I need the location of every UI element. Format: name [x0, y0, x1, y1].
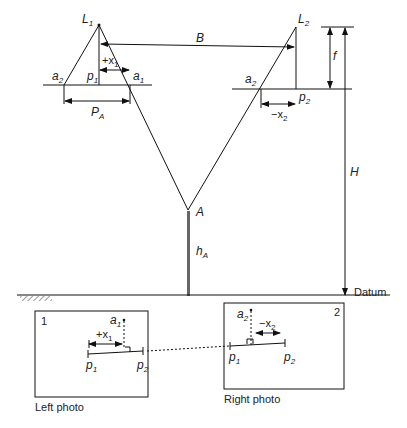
- label-minus-x2: −x2: [271, 108, 288, 123]
- left-photo-caption: Left photo: [35, 401, 84, 413]
- ground-hatch: [20, 296, 52, 301]
- right-photo-number: 2: [334, 306, 340, 318]
- right-photo-p2: p2: [283, 350, 296, 366]
- left-photo-plus-x1: +x1: [96, 328, 113, 343]
- label-B: B: [196, 31, 204, 45]
- label-L2: L2: [298, 12, 310, 28]
- label-hA: hA: [196, 244, 208, 260]
- label-A: A: [195, 205, 204, 219]
- label-a1: a1: [133, 69, 144, 85]
- label-PA: PA: [91, 105, 104, 121]
- object-height-bar: [187, 211, 190, 296]
- label-a2prime: a2: [52, 69, 64, 85]
- label-L1: L1: [82, 12, 93, 28]
- right-photo-a2: a2: [237, 307, 249, 323]
- left-photo-a1: a1: [110, 313, 121, 329]
- left-photo-number: 1: [41, 315, 47, 327]
- label-a2: a2: [245, 72, 257, 88]
- label-p2: p2: [298, 90, 311, 106]
- label-H: H: [350, 165, 359, 179]
- parallax-diagram: B +x1 PA −x2 L1 L2 a2 p1 a1 a2 p2 f H A …: [0, 0, 407, 428]
- right-photo-p1prime: p1: [228, 350, 240, 366]
- right-photo-minus-x2: −x2: [259, 317, 276, 332]
- label-datum: Datum: [354, 286, 386, 298]
- label-p1: p1: [86, 69, 98, 85]
- left-photo-p2prime: p2: [136, 358, 149, 374]
- right-photo-caption: Right photo: [224, 393, 280, 405]
- left-photo-p1: p1: [85, 358, 97, 374]
- label-f: f: [333, 49, 338, 63]
- label-plus-x1: +x1: [102, 54, 119, 69]
